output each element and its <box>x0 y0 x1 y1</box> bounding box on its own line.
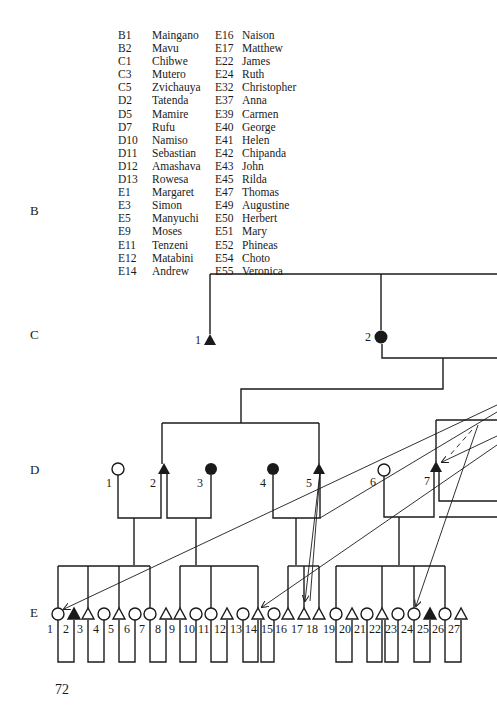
e13-number: 13 <box>230 622 242 636</box>
e18-open-triangle-icon <box>313 608 325 619</box>
e12-number: 12 <box>214 622 226 636</box>
e15-number: 15 <box>261 622 273 636</box>
d6-open-circle-icon <box>378 464 390 476</box>
e25-filled-triangle-icon <box>424 608 436 619</box>
d7-number: 7 <box>424 474 430 488</box>
e19-number: 19 <box>323 622 335 636</box>
d4-filled-circle-icon <box>267 463 279 475</box>
e22-number: 22 <box>369 622 381 636</box>
c1-filled-triangle-icon <box>204 334 216 345</box>
e23-open-circle-icon <box>392 608 404 620</box>
e14-number: 14 <box>245 622 257 636</box>
e13-open-circle-icon <box>237 608 249 620</box>
migration-arrows <box>64 405 497 609</box>
d1-number: 1 <box>106 476 112 490</box>
e7-open-circle-icon <box>144 608 156 620</box>
e20-open-triangle-icon <box>346 608 358 619</box>
e5-number: 5 <box>108 622 114 636</box>
e3-number: 3 <box>77 622 83 636</box>
e2-filled-triangle-icon <box>68 608 80 619</box>
d1-open-circle-icon <box>112 463 124 475</box>
c1-number: 1 <box>195 333 201 347</box>
c2-filled-circle-icon <box>375 331 388 344</box>
page-number: 72 <box>55 682 69 698</box>
d-generation-lines <box>118 420 497 565</box>
e2-number: 2 <box>63 622 69 636</box>
e22-open-triangle-icon <box>376 608 388 619</box>
e9-open-triangle-icon <box>174 608 186 619</box>
e1-number: 1 <box>47 622 53 636</box>
e-generation-nodes: 1234567891011121314151617181920212223242… <box>47 608 467 636</box>
d6-number: 6 <box>370 475 376 489</box>
d7-filled-triangle-icon <box>430 461 442 472</box>
e10-number: 10 <box>183 622 195 636</box>
e10-open-circle-icon <box>190 608 202 620</box>
e24-open-circle-icon <box>408 608 420 620</box>
e20-number: 20 <box>339 622 351 636</box>
e11-open-circle-icon <box>205 608 217 620</box>
d2-number: 2 <box>150 476 156 490</box>
e21-number: 21 <box>354 622 366 636</box>
c-generation-nodes: 1 2 <box>195 330 388 347</box>
d3-filled-circle-icon <box>205 463 217 475</box>
d5-number: 5 <box>306 476 312 490</box>
e18-number: 18 <box>306 622 318 636</box>
e24-number: 24 <box>401 622 413 636</box>
e7-number: 7 <box>139 622 145 636</box>
d2-filled-triangle-icon <box>158 463 170 474</box>
e6-open-circle-icon <box>129 608 141 620</box>
c2-number: 2 <box>365 330 371 344</box>
e23-number: 23 <box>385 622 397 636</box>
e6-number: 6 <box>124 622 130 636</box>
e9-number: 9 <box>169 622 175 636</box>
e12-open-triangle-icon <box>221 608 233 619</box>
e27-open-triangle-icon <box>455 608 467 619</box>
e16-number: 16 <box>275 622 287 636</box>
e26-number: 26 <box>432 622 444 636</box>
e19-open-circle-icon <box>330 608 342 620</box>
d3-number: 3 <box>197 476 203 490</box>
e1-open-circle-icon <box>52 608 64 620</box>
e25-number: 25 <box>417 622 429 636</box>
e-generation-lines <box>58 566 445 608</box>
e4-number: 4 <box>93 622 99 636</box>
e16-open-triangle-icon <box>282 608 294 619</box>
e4-open-circle-icon <box>98 608 110 620</box>
e26-open-circle-icon <box>439 608 451 620</box>
e21-open-circle-icon <box>361 608 373 620</box>
e8-number: 8 <box>155 622 161 636</box>
e17-open-triangle-icon <box>298 608 310 619</box>
e15-open-circle-icon <box>268 608 280 620</box>
d4-number: 4 <box>260 476 266 490</box>
e3-open-triangle-icon <box>82 608 94 619</box>
e11-number: 11 <box>198 622 210 636</box>
e27-number: 27 <box>448 622 460 636</box>
e14-open-triangle-icon <box>252 608 264 619</box>
e5-open-triangle-icon <box>113 608 125 619</box>
d5-filled-triangle-icon <box>313 463 325 474</box>
c-generation-lines <box>210 274 497 423</box>
e8-open-triangle-icon <box>160 608 172 619</box>
kinship-diagram: 1 2 1 2 3 4 5 6 7 1234567891011121314151… <box>0 0 497 714</box>
e17-number: 17 <box>291 622 303 636</box>
